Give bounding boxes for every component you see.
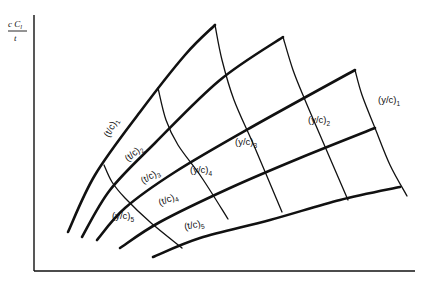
curve-label: (y/c)2 [308, 114, 330, 127]
curve-label: (y/c)1 [378, 94, 400, 107]
y-axis-label: c Cl t [8, 19, 27, 43]
svg-text:c Cl: c Cl [8, 19, 22, 30]
carpet-plot: c Cl t (t/c)1(t/c)2(t/c)3(t/c)4(t/c)5(y/… [0, 0, 422, 282]
svg-text:t: t [14, 33, 17, 43]
tc-curve-1 [68, 25, 215, 232]
spanwise-station-curves [104, 25, 407, 248]
curve-labels: (t/c)1(t/c)2(t/c)3(t/c)4(t/c)5(y/c)1(y/c… [101, 94, 400, 233]
thickness-ratio-curves [68, 25, 400, 257]
curve-label: (t/c)2 [122, 142, 146, 165]
curve-label: (t/c)1 [101, 116, 122, 140]
curve-label: (y/c)5 [112, 210, 134, 223]
yc-curve-3 [215, 25, 282, 212]
curve-label: (t/c)5 [183, 217, 206, 233]
curve-label: (y/c)4 [190, 164, 212, 177]
curve-label: (t/c)4 [157, 190, 181, 209]
curve-label: (y/c)3 [235, 136, 257, 149]
